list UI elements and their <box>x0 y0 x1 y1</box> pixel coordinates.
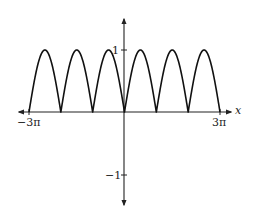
x-axis-label: x <box>235 104 242 117</box>
x-max-label: 3π <box>212 116 226 129</box>
x-min-label: −3π <box>17 116 40 129</box>
y-one-label: 1 <box>112 44 119 57</box>
graph: −3π 3π x 1 −1 <box>0 0 257 224</box>
y-neg-one-label: −1 <box>105 169 121 182</box>
